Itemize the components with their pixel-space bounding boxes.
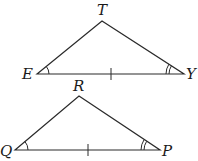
vertex-label-T: T: [97, 1, 108, 19]
angle-arc-Q: [25, 142, 28, 150]
triangle-QRP: R Q P: [0, 77, 173, 160]
vertex-label-Q: Q: [0, 142, 12, 160]
vertex-label-E: E: [21, 65, 33, 83]
angle-double-arc-Y-outer: [166, 64, 169, 74]
angle-double-arc-Y-inner: [169, 66, 171, 74]
angle-double-arc-P-inner: [144, 141, 147, 150]
angle-double-arc-P-outer: [141, 140, 144, 150]
vertex-label-P: P: [161, 142, 173, 160]
vertex-label-R: R: [72, 77, 84, 95]
congruent-triangles-diagram: T E Y R Q P: [0, 0, 198, 161]
triangle-ETY: T E Y: [21, 1, 198, 83]
triangle-ETY-outline: [37, 21, 184, 74]
angle-arc-E: [46, 66, 49, 74]
triangle-QRP-outline: [15, 96, 160, 150]
vertex-label-Y: Y: [186, 65, 198, 83]
